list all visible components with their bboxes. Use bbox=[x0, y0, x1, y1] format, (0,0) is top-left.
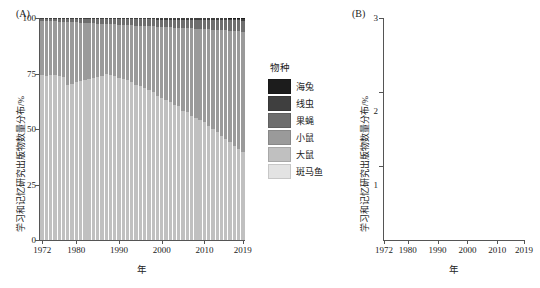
bar-segment bbox=[203, 20, 206, 29]
legend-item[interactable]: 果蝇 bbox=[268, 112, 338, 128]
legend-item[interactable]: 海兔 bbox=[268, 78, 338, 94]
stacked-bar bbox=[113, 18, 116, 240]
stacked-bar bbox=[147, 18, 150, 240]
stacked-bar bbox=[194, 18, 197, 240]
legend-swatch-icon bbox=[268, 96, 291, 111]
bar-segment bbox=[147, 90, 150, 240]
bar-segment bbox=[147, 26, 150, 90]
legend-title: 物种 bbox=[270, 60, 338, 74]
panel-b-ytick-mark-2 bbox=[379, 92, 383, 93]
bar-segment bbox=[62, 77, 65, 240]
bar-segment bbox=[117, 78, 120, 240]
bar-segment bbox=[134, 85, 137, 240]
bar-segment bbox=[53, 21, 56, 74]
legend-item[interactable]: 小鼠 bbox=[268, 129, 338, 145]
bar-segment bbox=[160, 27, 163, 98]
bar-segment bbox=[169, 20, 172, 28]
bar-segment bbox=[198, 29, 201, 120]
stacked-bar bbox=[126, 18, 129, 240]
bar-segment bbox=[207, 126, 210, 240]
stacked-bar bbox=[143, 18, 146, 240]
panel-a-ytick-mark-25 bbox=[35, 185, 39, 186]
legend-item-label: 斑马鱼 bbox=[296, 165, 323, 178]
bar-segment bbox=[87, 23, 90, 79]
bar-segment bbox=[143, 88, 146, 240]
bar-segment bbox=[220, 20, 223, 30]
panel-a-ytick-mark-0 bbox=[35, 240, 39, 241]
x-tick-mark bbox=[497, 240, 498, 244]
bar-segment bbox=[237, 20, 240, 31]
bar-segment bbox=[207, 29, 210, 125]
panel-b-ytick-3: 3 bbox=[362, 13, 378, 23]
legend-item[interactable]: 大鼠 bbox=[268, 146, 338, 162]
legend-item[interactable]: 斑马鱼 bbox=[268, 163, 338, 179]
stacked-bar bbox=[233, 18, 236, 240]
legend-item-label: 海兔 bbox=[296, 80, 314, 93]
panel-b-ytick-1: 1 bbox=[362, 180, 378, 190]
bar-segment bbox=[75, 22, 78, 82]
bar-segment bbox=[228, 142, 231, 240]
panel-b-xtick-label: 2019 bbox=[509, 245, 539, 255]
panel-b-xtick-label: 1980 bbox=[393, 245, 423, 255]
bar-segment bbox=[130, 25, 133, 82]
stacked-bar bbox=[207, 18, 210, 240]
bar-segment bbox=[224, 139, 227, 240]
legend-item[interactable]: 线虫 bbox=[268, 95, 338, 111]
bar-segment bbox=[190, 20, 193, 29]
bar-segment bbox=[92, 23, 95, 78]
bar-segment bbox=[211, 20, 214, 30]
bar-segment bbox=[126, 25, 129, 80]
x-tick-mark bbox=[119, 240, 120, 244]
panel-a-xtick-label: 1990 bbox=[104, 245, 134, 255]
x-tick-mark bbox=[76, 240, 77, 244]
panel-a-ytick-mark-50 bbox=[35, 129, 39, 130]
bar-segment bbox=[216, 132, 219, 240]
stacked-bar bbox=[83, 18, 86, 240]
panel-b-x-axis bbox=[383, 240, 524, 241]
bar-segment bbox=[62, 22, 65, 77]
bar-segment bbox=[45, 21, 48, 75]
stacked-bar bbox=[79, 18, 82, 240]
bar-segment bbox=[156, 20, 159, 27]
x-tick-mark bbox=[524, 240, 525, 244]
bar-segment bbox=[181, 111, 184, 240]
x-tick-mark bbox=[408, 240, 409, 244]
stacked-bar bbox=[45, 18, 48, 240]
stacked-bar bbox=[66, 18, 69, 240]
bar-segment bbox=[173, 20, 176, 28]
stacked-bar bbox=[75, 18, 78, 240]
stacked-bar bbox=[139, 18, 142, 240]
stacked-bar bbox=[152, 18, 155, 240]
panel-b-xtick-label: 1990 bbox=[423, 245, 453, 255]
x-tick-mark bbox=[438, 240, 439, 244]
bar-segment bbox=[109, 75, 112, 240]
bar-segment bbox=[203, 29, 206, 122]
bar-segment bbox=[96, 24, 99, 77]
legend-swatch-icon bbox=[268, 113, 291, 128]
bar-segment bbox=[58, 22, 61, 76]
bar-segment bbox=[139, 26, 142, 86]
bar-segment bbox=[160, 98, 163, 240]
bar-segment bbox=[181, 20, 184, 28]
bar-segment bbox=[220, 136, 223, 240]
stacked-bar bbox=[62, 18, 65, 240]
bar-segment bbox=[233, 20, 236, 30]
bar-segment bbox=[49, 75, 52, 240]
panel-b-xtick-label: 2000 bbox=[452, 245, 482, 255]
bar-segment bbox=[70, 84, 73, 241]
bar-segment bbox=[100, 24, 103, 76]
bar-segment bbox=[126, 80, 129, 240]
panel-b: (B) 学习和记忆研究出版物数量分布/% 1 2 3 1972198019902… bbox=[344, 0, 540, 288]
bar-segment bbox=[241, 32, 244, 153]
stacked-bar bbox=[49, 18, 52, 240]
stacked-bar bbox=[173, 18, 176, 240]
bar-segment bbox=[152, 26, 155, 92]
bar-segment bbox=[49, 21, 52, 75]
panel-b-y-axis-title: 学习和记忆研究出版物数量分布/% bbox=[358, 96, 371, 232]
stacked-bar bbox=[181, 18, 184, 240]
bar-segment bbox=[105, 24, 108, 74]
bar-segment bbox=[173, 28, 176, 105]
x-tick-mark bbox=[467, 240, 468, 244]
bar-segment bbox=[164, 100, 167, 240]
legend-swatch-icon bbox=[268, 147, 291, 162]
